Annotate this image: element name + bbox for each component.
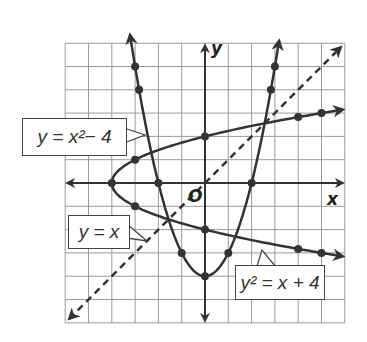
x-axis-label: x [327,189,338,209]
data-point [294,245,302,253]
data-point [318,109,326,117]
data-point [201,272,209,280]
data-point [224,249,232,257]
data-point [131,156,139,164]
data-point [201,226,209,234]
data-point [294,113,302,121]
data-point [131,202,139,210]
pointer-line [127,224,147,241]
data-point [135,86,143,94]
data-point [267,86,275,94]
data-point [201,132,209,140]
label-parabola-up: y = x²− 4 [22,118,127,156]
pointer-parabola-up [124,128,145,143]
y-axis-label: y [211,38,222,58]
label-line: y = x [68,215,130,249]
label-parabola-side: y² = x + 4 [235,265,325,300]
origin-label: O [188,186,202,206]
data-point [318,249,326,257]
data-point [271,63,279,71]
data-point [131,63,139,71]
data-point [108,179,116,187]
data-point [248,179,256,187]
data-point [178,249,186,257]
data-point [154,179,162,187]
